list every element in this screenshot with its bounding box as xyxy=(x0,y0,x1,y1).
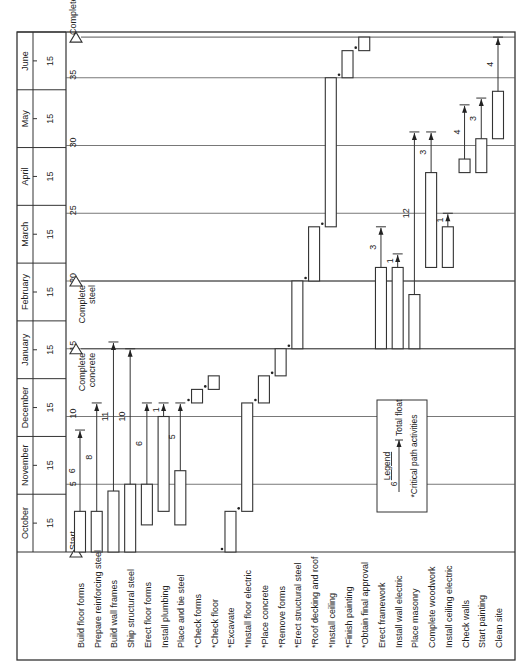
legend-float-label: Total float xyxy=(394,399,404,436)
activity-bars: 681110615311231434 xyxy=(67,37,504,552)
activity-bar xyxy=(208,376,219,390)
week-tick-label: 25 xyxy=(68,205,78,215)
activity-label: Install wall electric xyxy=(394,575,404,648)
activity-bar xyxy=(409,295,420,349)
activity-bar xyxy=(242,403,253,511)
float-arrowhead-icon xyxy=(496,38,501,45)
activity-bar xyxy=(158,417,169,512)
float-arrowhead-icon xyxy=(395,255,400,262)
month-label: November xyxy=(20,445,30,487)
activity-bar xyxy=(392,267,403,348)
float-arrowhead-icon xyxy=(111,343,116,350)
activity-bar xyxy=(125,484,136,552)
activity-label: Place and tie steel xyxy=(176,574,186,648)
month-label: May xyxy=(20,110,30,128)
milestone-label: steel xyxy=(87,285,97,304)
activity-label: Erect framework xyxy=(377,582,387,648)
float-value-label: 3 xyxy=(368,245,378,250)
activity-bar xyxy=(108,491,119,552)
activity-bar xyxy=(459,159,470,173)
critical-marker xyxy=(237,507,240,510)
float-arrowhead-icon xyxy=(94,404,99,411)
legend: Legend6Total float*Critical path activit… xyxy=(377,399,427,512)
month-tick-label: 15 xyxy=(45,518,55,528)
float-arrowhead-icon xyxy=(178,404,183,411)
month-label: January xyxy=(20,333,30,366)
month-label: March xyxy=(20,222,30,247)
activity-label: Install ceiling electric xyxy=(444,565,454,648)
milestone-label: concrete xyxy=(87,353,97,388)
month-tick-label: 15 xyxy=(45,403,55,413)
float-value-label: 3 xyxy=(468,116,478,121)
month-tick-label: 15 xyxy=(45,229,55,239)
activity-bar xyxy=(375,267,386,348)
float-value-label: 11 xyxy=(100,412,110,421)
legend-float-example: 6 xyxy=(389,481,399,486)
float-value-label: 4 xyxy=(485,62,495,67)
activity-bar xyxy=(309,227,320,281)
float-arrowhead-icon xyxy=(378,228,383,235)
activity-label: Check walls xyxy=(461,599,471,648)
legend-title: Legend xyxy=(382,452,392,481)
activity-label: Erect floor forms xyxy=(143,581,153,648)
month-tick-label: 15 xyxy=(45,171,55,181)
activity-label: Prepare reinforcing steel xyxy=(93,550,103,648)
activity-label: *Check floor xyxy=(210,599,220,648)
month-tick-label: 15 xyxy=(45,460,55,470)
critical-marker xyxy=(288,344,291,347)
float-value-label: 8 xyxy=(84,455,94,460)
chart-frame xyxy=(17,32,515,660)
activity-bar xyxy=(359,37,370,51)
activity-label: Place masonry xyxy=(410,588,420,648)
activity-label: Clean site xyxy=(494,608,504,648)
activity-label: *Place concrete xyxy=(260,585,270,648)
week-tick-label: 10 xyxy=(68,408,78,418)
float-arrowhead-icon xyxy=(479,99,484,106)
float-value-label: 3 xyxy=(418,150,428,155)
activity-bar xyxy=(342,51,353,78)
gantt-chart: October15November15December15January15Fe… xyxy=(0,0,525,671)
float-value-label: 12 xyxy=(401,208,411,218)
activity-bar xyxy=(91,511,102,552)
float-value-label: 1 xyxy=(435,218,445,223)
float-arrowhead-icon xyxy=(445,214,450,221)
activity-label: *Install floor electric xyxy=(243,569,253,648)
activity-bar xyxy=(325,78,336,227)
month-label: June xyxy=(20,51,30,71)
float-value-label: 4 xyxy=(452,129,462,134)
activity-label: *Roof decking and roof xyxy=(310,556,320,648)
critical-marker xyxy=(271,372,274,375)
float-arrowhead-icon xyxy=(144,404,149,411)
float-arrowhead-icon xyxy=(412,133,417,140)
activity-label: *Install ceiling xyxy=(327,593,337,648)
activity-label: *Obtain final approval xyxy=(360,562,370,648)
month-tick-label: 15 xyxy=(45,345,55,355)
float-value-label: 1 xyxy=(385,258,395,263)
critical-marker xyxy=(254,399,257,402)
month-label: December xyxy=(20,387,30,429)
milestones: StartCompleteconcreteCompletesteelComple… xyxy=(68,0,515,557)
activity-bar xyxy=(192,389,203,403)
critical-marker xyxy=(187,399,190,402)
week-gridlines: 5101520253035 xyxy=(66,70,515,487)
milestone-label: Complete xyxy=(68,0,78,35)
milestone-label: Complete xyxy=(77,285,87,324)
activity-label: Build floor forms xyxy=(76,582,86,648)
activity-label: Install plumbing xyxy=(160,585,170,648)
activity-bar xyxy=(75,511,86,552)
activity-label: Complete woodwork xyxy=(427,566,437,648)
milestone-label: Complete xyxy=(77,353,87,392)
month-label: April xyxy=(20,167,30,185)
activity-label: *Check forms xyxy=(193,593,203,648)
activity-label: Build wall frames xyxy=(109,579,119,648)
month-tick-label: 15 xyxy=(45,114,55,124)
activity-bar xyxy=(258,376,269,403)
legend-critical-label: *Critical path activities xyxy=(409,414,419,497)
float-arrowhead-icon xyxy=(78,431,83,438)
critical-marker xyxy=(221,548,224,551)
activity-bar xyxy=(442,227,453,268)
float-arrowhead-icon xyxy=(128,350,133,357)
activity-bar xyxy=(476,139,487,173)
activity-label: Start painting xyxy=(477,595,487,648)
float-arrowhead-icon xyxy=(429,133,434,140)
